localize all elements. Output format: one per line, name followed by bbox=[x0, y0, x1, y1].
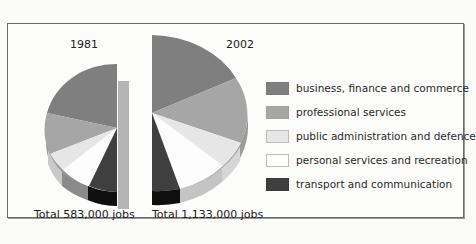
legend-label: public administration and defence bbox=[296, 130, 476, 142]
pie-2002 bbox=[152, 35, 248, 205]
legend-item-personal: personal services and recreation bbox=[266, 148, 476, 172]
legend-swatch-public-admin bbox=[266, 130, 289, 143]
total-label-2002: Total 1,133,000 jobs bbox=[152, 208, 263, 221]
legend-label: business, finance and commerce bbox=[296, 82, 469, 94]
total-label-1981: Total 583,000 jobs bbox=[34, 208, 135, 221]
year-label-2002: 2002 bbox=[226, 38, 254, 51]
year-label-1981: 1981 bbox=[70, 38, 98, 51]
legend-label: transport and communication bbox=[296, 178, 452, 190]
legend-label: personal services and recreation bbox=[296, 154, 468, 166]
legend-swatch-professional bbox=[266, 106, 289, 119]
legend-item-professional: professional services bbox=[266, 100, 476, 124]
legend-item-transport: transport and communication bbox=[266, 172, 476, 196]
legend: business, finance and commerce professio… bbox=[266, 76, 476, 196]
legend-swatch-transport bbox=[266, 178, 289, 191]
legend-item-public-admin: public administration and defence bbox=[266, 124, 476, 148]
pie-1981-cut-face bbox=[118, 81, 129, 209]
legend-label: professional services bbox=[296, 106, 406, 118]
legend-item-business: business, finance and commerce bbox=[266, 76, 476, 100]
legend-swatch-business bbox=[266, 82, 289, 95]
legend-swatch-personal bbox=[266, 154, 289, 167]
pie-1981 bbox=[45, 64, 129, 209]
